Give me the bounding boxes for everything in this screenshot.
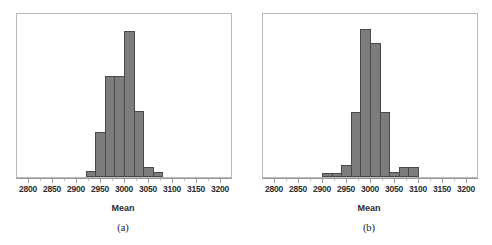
x-axis-tick-label: 3100 (409, 184, 427, 194)
x-axis-title-a: Mean (0, 203, 246, 213)
x-axis-tick-minor (160, 179, 161, 181)
x-axis-tick-label: 2950 (337, 184, 355, 194)
x-axis-tick-label: 2800 (265, 184, 283, 194)
x-axis-tick-label: 2900 (67, 184, 85, 194)
x-axis-tick-minor (136, 179, 137, 181)
x-axis-tick (466, 179, 467, 183)
x-axis-tick-minor (286, 179, 287, 181)
x-axis-tick (418, 179, 419, 183)
x-axis-tick (322, 179, 323, 183)
x-axis-tick-minor (64, 179, 65, 181)
x-axis-tick (52, 179, 53, 183)
figure-two-histograms: 280028502900295030003050310031503200 Mea… (0, 0, 492, 245)
panel-caption-a: (a) (0, 222, 246, 233)
x-axis-tick (196, 179, 197, 183)
x-axis-tick-label: 3150 (187, 184, 205, 194)
x-axis-tick-label: 2800 (19, 184, 37, 194)
x-axis-tick-label: 3200 (211, 184, 229, 194)
x-axis-tick-minor (208, 179, 209, 181)
x-axis-tick (28, 179, 29, 183)
x-axis-tick-label: 3050 (385, 184, 403, 194)
x-axis-tick-minor (184, 179, 185, 181)
x-axis-tick (220, 179, 221, 183)
x-axis-tick-labels-a: 280028502900295030003050310031503200 (0, 184, 246, 198)
x-axis-tick (76, 179, 77, 183)
x-axis-tick-minor (40, 179, 41, 181)
x-axis-tick (124, 179, 125, 183)
panel-b: 280028502900295030003050310031503200 Mea… (246, 0, 492, 245)
x-axis-tick-minor (334, 179, 335, 181)
x-axis-tick-minor (382, 179, 383, 181)
x-axis-tick (274, 179, 275, 183)
x-axis-tick-minor (454, 179, 455, 181)
x-axis-tick-minor (310, 179, 311, 181)
panel-a: 280028502900295030003050310031503200 Mea… (0, 0, 246, 245)
x-axis-tick-label: 2850 (43, 184, 61, 194)
histogram-bars-a (17, 14, 231, 177)
histogram-bar (408, 167, 419, 177)
x-axis-tick (346, 179, 347, 183)
x-axis-tick (370, 179, 371, 183)
x-axis-tick (298, 179, 299, 183)
x-axis-tick-minor (112, 179, 113, 181)
x-axis-title-b: Mean (246, 203, 492, 213)
x-axis-tick-labels-b: 280028502900295030003050310031503200 (246, 184, 492, 198)
plot-frame-a (16, 13, 232, 178)
x-axis-tick-label: 2850 (289, 184, 307, 194)
x-axis-tick-label: 3000 (361, 184, 379, 194)
histogram-bar (153, 172, 164, 177)
x-axis-tick (172, 179, 173, 183)
x-axis-tick-minor (406, 179, 407, 181)
x-axis-tick-label: 3050 (139, 184, 157, 194)
x-axis-tick-label: 3000 (115, 184, 133, 194)
x-axis-tick-minor (88, 179, 89, 181)
x-axis-tick-label: 2900 (313, 184, 331, 194)
x-axis-tick (442, 179, 443, 183)
panel-caption-b: (b) (246, 222, 492, 233)
x-axis-tick-minor (358, 179, 359, 181)
plot-frame-b (262, 13, 478, 178)
x-axis-tick-label: 2950 (91, 184, 109, 194)
x-axis-tick-label: 3200 (457, 184, 475, 194)
x-axis-tick (100, 179, 101, 183)
x-axis-tick (148, 179, 149, 183)
x-axis-tick-label: 3150 (433, 184, 451, 194)
x-axis-tick (394, 179, 395, 183)
x-axis-tick-minor (430, 179, 431, 181)
histogram-bar (380, 112, 391, 177)
histogram-bars-b (263, 14, 477, 177)
x-axis-tick-label: 3100 (163, 184, 181, 194)
